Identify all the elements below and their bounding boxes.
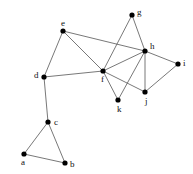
graph-node-d[interactable]	[41, 74, 46, 79]
graph-node-a[interactable]	[21, 151, 26, 156]
graph-node-j[interactable]	[142, 89, 147, 94]
graph-node-label-i: i	[183, 58, 186, 68]
graph-node-i[interactable]	[175, 61, 180, 66]
graph-edge-e-h	[63, 31, 145, 51]
graph-node-label-a: a	[21, 157, 25, 167]
graph-node-b[interactable]	[62, 160, 67, 165]
graph-edge-f-h	[103, 51, 145, 71]
graph-diagram: abcdefghijk	[0, 0, 193, 174]
graph-figure-canvas: abcdefghijk	[0, 0, 193, 174]
graph-edge-a-b	[24, 154, 65, 163]
graph-edge-e-f	[63, 31, 103, 71]
graph-edge-d-f	[44, 71, 103, 77]
graph-edge-c-d	[44, 77, 48, 122]
graph-node-label-b: b	[70, 159, 75, 169]
graph-edge-f-k	[103, 71, 118, 100]
graph-node-label-e: e	[61, 18, 65, 28]
graph-node-h[interactable]	[142, 48, 147, 53]
graph-edge-i-j	[145, 64, 178, 92]
graph-edge-d-e	[44, 31, 63, 77]
graph-edge-g-h	[132, 15, 145, 51]
graph-node-g[interactable]	[129, 12, 134, 17]
graph-node-label-h: h	[150, 41, 155, 51]
graph-node-label-c: c	[54, 117, 58, 127]
edge-layer	[24, 15, 178, 163]
graph-edge-h-i	[145, 51, 178, 64]
graph-node-e[interactable]	[60, 28, 65, 33]
graph-edge-h-k	[118, 51, 145, 100]
graph-node-label-g: g	[137, 7, 142, 17]
graph-node-label-k: k	[117, 104, 122, 114]
graph-node-c[interactable]	[45, 119, 50, 124]
graph-edge-b-c	[48, 122, 65, 163]
graph-node-k[interactable]	[115, 97, 120, 102]
graph-node-label-j: j	[144, 96, 148, 106]
graph-edge-a-c	[24, 122, 48, 154]
graph-node-f[interactable]	[100, 68, 105, 73]
label-layer: abcdefghijk	[21, 7, 186, 169]
graph-edge-f-g	[103, 15, 132, 71]
graph-node-label-d: d	[34, 70, 39, 80]
graph-node-label-f: f	[101, 74, 104, 84]
